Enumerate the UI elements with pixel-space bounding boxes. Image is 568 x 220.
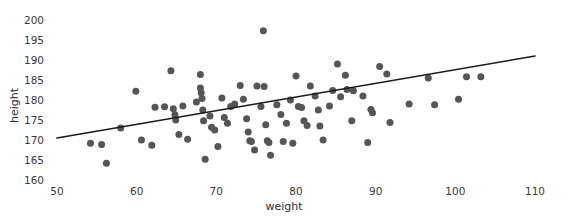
data-point	[148, 142, 155, 149]
data-point	[298, 104, 305, 111]
data-point	[280, 138, 287, 145]
data-point	[307, 83, 314, 90]
y-tick-label: 185	[18, 75, 44, 86]
data-points-layer	[87, 27, 484, 166]
y-tick-label: 160	[18, 175, 44, 186]
data-point	[198, 95, 205, 102]
data-point	[214, 143, 221, 150]
data-point	[200, 117, 207, 124]
data-point	[202, 156, 209, 163]
data-point	[406, 101, 413, 108]
data-point	[477, 73, 484, 80]
data-point	[326, 103, 333, 110]
data-point	[248, 138, 255, 145]
x-tick-label: 100	[445, 186, 465, 197]
data-point	[364, 139, 371, 146]
data-point	[293, 73, 300, 80]
y-axis-title: height	[9, 76, 20, 136]
data-point	[87, 140, 94, 147]
data-point	[151, 104, 158, 111]
data-point	[431, 101, 438, 108]
x-tick-label: 50	[50, 186, 63, 197]
data-point	[425, 75, 432, 82]
data-point	[337, 93, 344, 100]
data-point	[179, 103, 186, 110]
y-tick-label: 175	[18, 115, 44, 126]
data-point	[316, 123, 323, 130]
y-tick-label: 195	[18, 35, 44, 46]
data-point	[240, 96, 247, 103]
data-point	[342, 72, 349, 79]
y-tick-label: 180	[18, 95, 44, 106]
data-point	[170, 105, 177, 112]
data-point	[359, 93, 366, 100]
scatter-plot-figure: 160165170175180185190195200 506070809010…	[0, 0, 568, 220]
data-point	[283, 120, 290, 127]
data-point	[251, 147, 258, 154]
x-tick-label: 90	[369, 186, 382, 197]
data-point	[132, 88, 139, 95]
data-point	[387, 119, 394, 126]
y-tick-label: 170	[18, 135, 44, 146]
data-point	[184, 136, 191, 143]
data-point	[304, 122, 311, 129]
data-point	[261, 83, 268, 90]
x-axis-title: weight	[0, 201, 568, 212]
y-tick-label: 190	[18, 55, 44, 66]
data-point	[315, 107, 322, 114]
data-point	[253, 83, 260, 90]
regression-trendline	[57, 56, 535, 138]
x-tick-label: 70	[210, 186, 223, 197]
x-tick-label: 110	[525, 186, 545, 197]
plot-canvas	[0, 0, 568, 220]
data-point	[320, 137, 327, 144]
y-tick-label: 165	[18, 155, 44, 166]
data-point	[273, 101, 280, 108]
data-point	[376, 63, 383, 70]
data-point	[175, 131, 182, 138]
data-point	[267, 152, 274, 159]
data-point	[334, 61, 341, 68]
data-point	[383, 71, 390, 78]
x-tick-label: 80	[289, 186, 302, 197]
data-point	[197, 71, 204, 78]
data-point	[218, 95, 225, 102]
data-point	[369, 109, 376, 116]
data-point	[211, 127, 218, 134]
data-point	[289, 140, 296, 147]
data-point	[265, 139, 272, 146]
data-point	[167, 67, 174, 74]
data-point	[243, 115, 250, 122]
data-point	[224, 120, 231, 127]
data-point	[237, 82, 244, 89]
x-tick-label: 60	[130, 186, 143, 197]
data-point	[138, 137, 145, 144]
data-point	[260, 27, 267, 34]
y-tick-label: 200	[18, 15, 44, 26]
data-point	[161, 103, 168, 110]
data-point	[103, 160, 110, 167]
data-point	[455, 96, 462, 103]
data-point	[262, 121, 269, 128]
data-point	[463, 73, 470, 80]
data-point	[98, 141, 105, 148]
data-point	[277, 111, 284, 118]
data-point	[206, 113, 213, 120]
data-point	[245, 129, 252, 136]
data-point	[348, 117, 355, 124]
